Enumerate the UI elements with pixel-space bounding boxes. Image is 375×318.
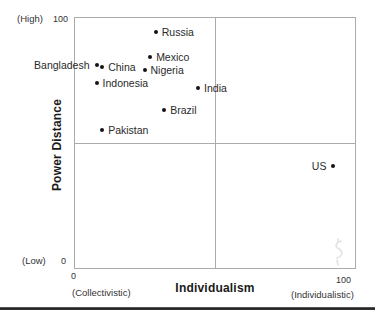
x-axis-individualistic-label: (Individualistic): [291, 289, 354, 300]
data-point-label: Indonesia: [103, 77, 149, 89]
bottom-divider-rule: [0, 307, 375, 310]
data-point-label: India: [204, 82, 227, 94]
y-axis-title: Power Distance: [50, 99, 64, 191]
plot-area: [74, 17, 356, 269]
scatter-chart: (High) 100 (Low) 0 Power Distance Russia…: [0, 0, 375, 318]
data-point-dot: [95, 63, 99, 67]
data-point-label: Bangladesh: [34, 59, 89, 71]
y-axis-max-tick: 100: [40, 14, 68, 24]
watermark-artifact: [331, 238, 345, 266]
data-point-dot: [154, 30, 158, 34]
x-axis-max-tick: 100: [336, 275, 351, 285]
data-point-label: Mexico: [156, 51, 189, 63]
x-axis-title: Individualism: [159, 281, 271, 295]
y-axis-min-tick: 0: [40, 256, 66, 266]
data-point-dot: [143, 68, 147, 72]
data-point-label: Nigeria: [151, 64, 184, 76]
y-axis-high-label: (High): [17, 13, 43, 24]
data-point-dot: [95, 81, 99, 85]
data-point-label: China: [108, 61, 135, 73]
x-axis-min-tick: 0: [71, 271, 76, 281]
x-axis-collectivistic-label: (Collectivistic): [72, 287, 131, 298]
data-point-dot: [196, 86, 200, 90]
data-point-label: Brazil: [170, 104, 196, 116]
data-point-label: US: [312, 160, 327, 172]
data-point-label: Pakistan: [108, 124, 148, 136]
data-point-label: Russia: [162, 26, 194, 38]
quadrant-divider-horizontal: [75, 143, 355, 144]
